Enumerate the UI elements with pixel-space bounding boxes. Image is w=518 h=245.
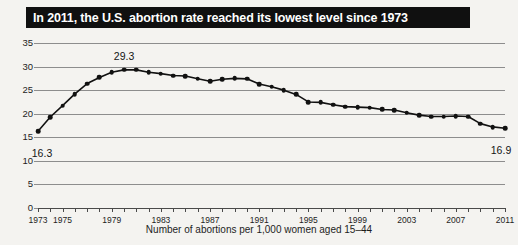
x-axis-tick [296,208,297,212]
data-point [73,92,78,97]
x-axis-tick [370,208,371,212]
value-annotation: 29.3 [114,50,134,62]
series-line [38,43,505,208]
data-point [134,68,139,73]
data-point [159,71,164,76]
data-point [146,70,151,75]
x-axis-tick [321,208,322,212]
data-point [195,77,200,82]
x-axis-tick [247,208,248,212]
data-point [97,75,102,80]
data-point [306,100,311,105]
y-axis-label: 20 [22,108,33,119]
x-axis-tick [75,208,76,212]
x-axis-tick [112,208,113,212]
x-axis-tick [284,208,285,212]
data-point [208,79,213,84]
x-axis-tick [272,208,273,212]
x-axis-tick [431,208,432,212]
x-axis-tick [222,208,223,212]
data-point [85,81,90,86]
data-point [122,68,127,73]
data-point [281,88,286,93]
x-axis-tick [493,208,494,212]
data-point [171,73,176,78]
x-axis-tick [382,208,383,212]
x-axis-tick [468,208,469,212]
value-annotation: 16.9 [491,144,511,156]
x-axis-tick [308,208,309,212]
data-point [454,114,459,119]
chart-page: In 2011, the U.S. abortion rate reached … [0,0,518,245]
x-axis-tick [505,208,506,212]
x-axis-tick [161,208,162,212]
y-axis-label: 25 [22,84,33,95]
x-axis-tick [345,208,346,212]
chart-title-banner: In 2011, the U.S. abortion rate reached … [26,7,470,28]
data-point [257,82,262,87]
data-point [429,114,434,119]
data-point [343,104,348,109]
y-axis-label: 15 [22,131,33,142]
x-axis-tick [185,208,186,212]
x-axis-tick [419,208,420,212]
page-title: In 2011, the U.S. abortion rate reached … [33,11,408,25]
x-axis-tick [394,208,395,212]
x-axis-tick [149,208,150,212]
chart-caption: Number of abortions per 1,000 women aged… [0,224,518,235]
x-axis-tick [358,208,359,212]
data-point [466,114,471,119]
x-axis-tick [333,208,334,212]
x-axis-tick [136,208,137,212]
data-point [503,126,508,131]
x-axis-tick [259,208,260,212]
x-axis-tick [456,208,457,212]
data-point [48,115,53,120]
x-axis-tick [50,208,51,212]
data-point [478,121,483,126]
data-point [220,77,225,82]
x-axis-tick [173,208,174,212]
data-point [232,76,237,81]
data-point [183,74,188,79]
value-annotation: 16.3 [32,147,52,159]
data-point [380,107,385,112]
y-axis-label: 30 [22,61,33,72]
data-point [355,105,360,110]
data-point [294,92,299,97]
x-axis-tick [198,208,199,212]
data-point [245,77,250,82]
y-axis-label: 35 [22,37,33,48]
data-point [331,102,336,107]
data-point [417,113,422,118]
data-point [441,114,446,119]
data-point [60,103,65,108]
y-axis-label: 5 [28,178,33,189]
data-point [36,129,41,134]
data-point [490,125,495,130]
x-axis-tick [124,208,125,212]
data-point [109,70,114,75]
x-axis-tick [480,208,481,212]
data-point [269,85,274,90]
x-axis-tick [87,208,88,212]
x-axis-tick [99,208,100,212]
data-point [404,110,409,115]
data-point [392,108,397,113]
y-axis-label: 0 [28,202,33,213]
x-axis-tick [38,208,39,212]
data-point [368,105,373,110]
x-axis-tick [407,208,408,212]
x-axis-tick [235,208,236,212]
plot-area: 05101520253035 1973197519791983198719911… [38,43,505,208]
data-point [318,100,323,105]
x-axis-tick [63,208,64,212]
x-axis-tick [444,208,445,212]
x-axis-tick [210,208,211,212]
